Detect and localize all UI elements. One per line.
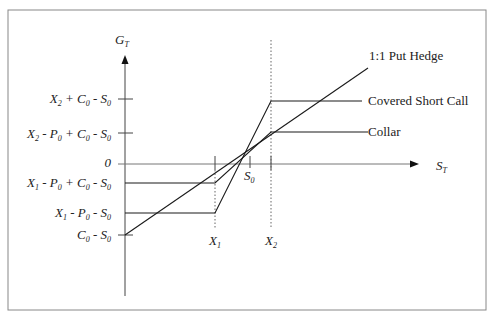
legend-collar: Collar — [368, 124, 401, 139]
x-tick-x1: X1 — [208, 233, 221, 250]
legend-put-hedge: 1:1 Put Hedge — [369, 48, 444, 63]
y-axis-label: GT — [115, 32, 129, 49]
x-tick-s0: S0 — [244, 168, 255, 185]
y-tick-x2-c0-s0: X2 + C0 - S0 — [49, 91, 111, 108]
strike-guides — [215, 40, 271, 228]
x-tick-x2: X2 — [264, 233, 277, 250]
y-tick-x1-p0-s0: X1 - P0 - S0 — [54, 205, 111, 222]
x-axis-arrow-icon — [410, 161, 419, 168]
y-tick-x2-p0-c0-s0: X2 - P0 + C0 - S0 — [26, 126, 111, 143]
payoff-diagram: GT ST X2 + C0 - S0 X2 - P0 + C0 - S0 0 X… — [0, 0, 494, 319]
x-axis — [118, 161, 419, 168]
y-tick-x1-p0-c0-s0: X1 - P0 + C0 - S0 — [26, 175, 111, 192]
y-axis — [122, 55, 129, 296]
y-axis-arrow-icon — [122, 55, 129, 64]
legend-covered-short-call: Covered Short Call — [368, 93, 469, 108]
put-hedge-line — [125, 68, 368, 235]
y-tick-c0-s0: C0 - S0 — [77, 227, 111, 244]
y-tick-zero: 0 — [105, 155, 112, 170]
x-axis-label: ST — [436, 158, 448, 175]
